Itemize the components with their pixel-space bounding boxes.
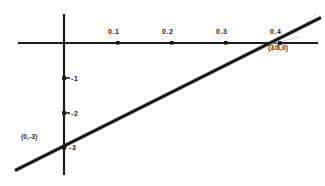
x-tick-label-04: 0.4: [270, 28, 282, 35]
y-tick-label-minus-2: -2: [71, 110, 78, 117]
x-intercept-label: (3/8,0): [268, 45, 288, 52]
x-tick-mark-02: [170, 41, 174, 45]
y-tick-label-minus-3: -3: [69, 144, 76, 151]
x-tick-mark-03: [224, 41, 228, 45]
y-intercept-point: [62, 145, 66, 149]
plotted-line: [15, 18, 321, 171]
x-tick-label-02: 0.2: [162, 28, 174, 35]
y-tick-label-minus-1: -1: [71, 75, 78, 82]
graph-figure: 0.1 0.2 0.3 0.4 -1 -2 -3 (0,-3) (3/8,0): [0, 0, 325, 186]
x-tick-mark-01: [116, 41, 120, 45]
y-intercept-label: (0,-3): [21, 134, 38, 141]
x-tick-label-01: 0.1: [108, 28, 120, 35]
x-tick-label-03: 0.3: [216, 28, 228, 35]
